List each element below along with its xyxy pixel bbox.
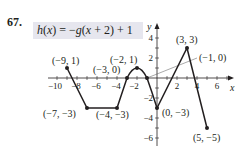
- svg-text:−2: −2: [143, 93, 153, 103]
- x-axis-arrow-icon: [228, 76, 234, 81]
- point-neg3-0: [125, 76, 129, 80]
- svg-text:−6: −6: [91, 81, 101, 91]
- y-axis-label: y: [146, 21, 152, 32]
- svg-text:(−1, 0): (−1, 0): [199, 52, 226, 64]
- svg-text:−6: −6: [143, 133, 153, 143]
- svg-text:6: 6: [215, 81, 220, 91]
- svg-text:(3, 3): (3, 3): [176, 34, 198, 46]
- point-5-neg5: [205, 126, 209, 130]
- svg-text:−10: −10: [48, 81, 63, 91]
- point-3-3: [185, 46, 189, 50]
- svg-text:(0, −3): (0, −3): [162, 107, 189, 119]
- point-0-neg3: [155, 106, 159, 110]
- point-neg1-0: [145, 76, 149, 80]
- svg-text:(5, −5): (5, −5): [193, 132, 220, 144]
- y-axis-arrow-icon: [155, 23, 160, 29]
- svg-text:−4: −4: [111, 81, 121, 91]
- y-tick-labels: 42 −2−4 −6: [143, 33, 153, 143]
- point-neg7-neg3: [85, 106, 89, 110]
- point-neg2-1: [135, 66, 139, 70]
- svg-text:2: 2: [149, 53, 154, 63]
- svg-text:(−9, 1): (−9, 1): [52, 55, 79, 67]
- point-neg9-1: [65, 66, 69, 70]
- svg-text:(−4, −3): (−4, −3): [96, 109, 129, 121]
- svg-text:2: 2: [175, 81, 180, 91]
- function-graph: x y −10−8 −6−4 −22 46 42 −2−4 −6: [0, 0, 245, 153]
- svg-text:(−2, 1): (−2, 1): [110, 54, 137, 66]
- svg-text:(−3, 0): (−3, 0): [93, 64, 120, 76]
- svg-text:−4: −4: [143, 113, 153, 123]
- svg-text:(−7, −3): (−7, −3): [43, 108, 76, 120]
- svg-text:−2: −2: [129, 81, 139, 91]
- x-axis-label: x: [229, 82, 235, 93]
- svg-text:4: 4: [149, 33, 154, 43]
